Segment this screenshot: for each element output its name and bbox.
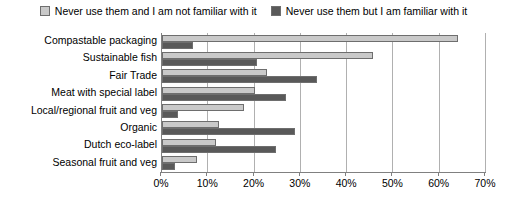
chart-legend: Never use them and I am not familiar wit… bbox=[0, 0, 507, 22]
bar bbox=[162, 128, 295, 135]
legend-swatch-icon-not-familiar bbox=[40, 6, 50, 16]
x-axis-tick bbox=[160, 172, 161, 176]
bar bbox=[162, 76, 317, 83]
x-axis-tick-label: 20% bbox=[243, 177, 264, 189]
category-label: Seasonal fruit and veg bbox=[0, 157, 157, 168]
category-label: Local/regional fruit and veg bbox=[0, 105, 157, 116]
bar bbox=[162, 52, 373, 59]
legend-label-not-familiar: Never use them and I am not familiar wit… bbox=[55, 6, 257, 17]
bar bbox=[162, 104, 244, 111]
x-axis-tick-label: 70% bbox=[474, 177, 495, 189]
bar bbox=[162, 156, 197, 163]
bar-group bbox=[162, 69, 486, 86]
x-axis-tick bbox=[253, 172, 254, 176]
category-label: Fair Trade bbox=[0, 70, 157, 81]
x-axis-tick bbox=[438, 172, 439, 176]
bar bbox=[162, 59, 257, 66]
bar bbox=[162, 139, 216, 146]
bar bbox=[162, 87, 255, 94]
x-axis-tick-label: 30% bbox=[289, 177, 310, 189]
bar bbox=[162, 94, 286, 101]
bar-group bbox=[162, 139, 486, 156]
bar-group bbox=[162, 87, 486, 104]
legend-swatch-icon-familiar bbox=[271, 6, 281, 16]
category-label: Dutch eco-label bbox=[0, 139, 157, 150]
x-axis-tick bbox=[345, 172, 346, 176]
bar-chart: Never use them and I am not familiar wit… bbox=[0, 0, 507, 200]
x-axis-tick-label: 0% bbox=[153, 177, 168, 189]
bar bbox=[162, 146, 276, 153]
legend-entry-familiar: Never use them but I am familiar with it bbox=[271, 6, 467, 17]
legend-entry-not-familiar: Never use them and I am not familiar wit… bbox=[40, 6, 257, 17]
plot-area bbox=[161, 33, 486, 173]
x-axis-tick-label: 60% bbox=[428, 177, 449, 189]
bar bbox=[162, 111, 178, 118]
x-axis-tick bbox=[391, 172, 392, 176]
bar bbox=[162, 42, 193, 49]
bar bbox=[162, 69, 267, 76]
x-axis-tick-label: 50% bbox=[382, 177, 403, 189]
x-axis-tick bbox=[299, 172, 300, 176]
bar bbox=[162, 121, 219, 128]
bar-group bbox=[162, 52, 486, 69]
x-axis-tick-label: 10% bbox=[197, 177, 218, 189]
bar bbox=[162, 163, 175, 170]
x-axis-tick bbox=[484, 172, 485, 176]
bar-group bbox=[162, 121, 486, 138]
x-axis-tick bbox=[206, 172, 207, 176]
legend-label-familiar: Never use them but I am familiar with it bbox=[286, 6, 467, 17]
category-label: Compastable packaging bbox=[0, 35, 157, 46]
bar-group bbox=[162, 156, 486, 173]
category-label: Sustainable fish bbox=[0, 52, 157, 63]
bar-group bbox=[162, 104, 486, 121]
x-axis-tick-label: 40% bbox=[336, 177, 357, 189]
bar bbox=[162, 35, 458, 42]
category-label: Organic bbox=[0, 122, 157, 133]
category-axis-labels: Compastable packagingSustainable fishFai… bbox=[0, 33, 157, 172]
category-label: Meat with special label bbox=[0, 87, 157, 98]
bar-group bbox=[162, 35, 486, 52]
